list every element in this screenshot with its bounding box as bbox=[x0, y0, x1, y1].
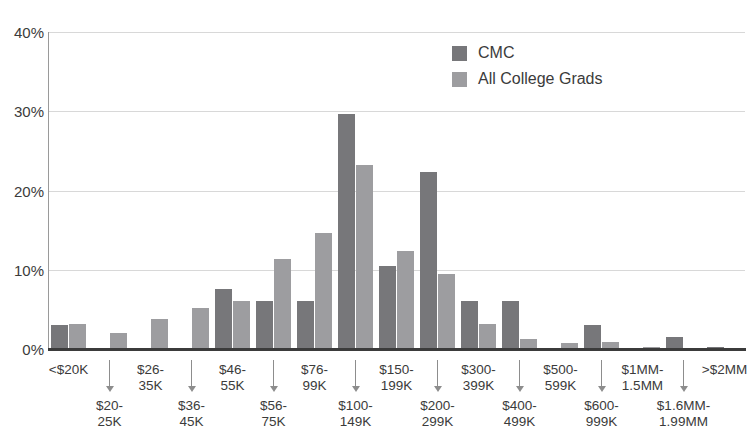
bar-cmc bbox=[502, 301, 519, 349]
x-tick-label: $400- 499K bbox=[484, 398, 556, 429]
bar-cmc bbox=[461, 301, 478, 349]
x-tick-label: $20- 25K bbox=[74, 398, 146, 429]
x-tick-arrow-icon bbox=[679, 360, 688, 394]
x-tick-label: $300- 399K bbox=[443, 362, 515, 393]
bar-cmc bbox=[215, 289, 232, 349]
legend-item-cmc: CMC bbox=[452, 44, 603, 62]
x-axis-line bbox=[48, 348, 746, 351]
bar-grads bbox=[151, 319, 168, 349]
x-tick-label: $36- 45K bbox=[156, 398, 228, 429]
x-tick-label: $100- 149K bbox=[320, 398, 392, 429]
bar-group bbox=[253, 32, 294, 349]
bar-grads bbox=[69, 324, 86, 349]
bar-group bbox=[663, 32, 704, 349]
bar-grads bbox=[438, 274, 455, 349]
x-tick-arrow-icon bbox=[515, 360, 524, 394]
y-tick-label-20: 20% bbox=[14, 182, 44, 199]
y-tick-label-10: 10% bbox=[14, 261, 44, 278]
bar-cmc bbox=[297, 301, 314, 349]
x-tick-label: $1MM- 1.5MM bbox=[607, 362, 679, 393]
bars-layer bbox=[48, 32, 745, 349]
bar-group bbox=[212, 32, 253, 349]
x-tick-label: $200- 299K bbox=[402, 398, 474, 429]
bar-cmc bbox=[338, 114, 355, 349]
y-axis-line bbox=[48, 32, 49, 350]
legend-swatch-grads-icon bbox=[452, 72, 467, 87]
bar-grads bbox=[110, 333, 127, 349]
bar-group bbox=[704, 32, 745, 349]
x-tick-label: $56- 75K bbox=[238, 398, 310, 429]
x-tick-label: $150- 199K bbox=[361, 362, 433, 393]
bar-cmc bbox=[256, 301, 273, 349]
bar-grads bbox=[397, 251, 414, 349]
x-tick-label: $1.6MM- 1.99MM bbox=[648, 398, 720, 429]
x-tick-arrow-icon bbox=[269, 360, 278, 394]
bar-grads bbox=[192, 308, 209, 349]
bar-cmc bbox=[420, 172, 437, 349]
legend-label-all-college-grads: All College Grads bbox=[478, 70, 603, 88]
plot-area bbox=[48, 32, 745, 349]
y-tick-label-30: 30% bbox=[14, 103, 44, 120]
x-tick-label: $600- 999K bbox=[566, 398, 638, 429]
income-distribution-bar-chart: 0%10%20%30%40% CMC All College Grads <$2… bbox=[0, 0, 754, 448]
legend-label-cmc: CMC bbox=[478, 44, 514, 62]
x-tick-label: $46- 55K bbox=[197, 362, 269, 393]
x-tick-arrow-icon bbox=[351, 360, 360, 394]
bar-grads bbox=[233, 301, 250, 349]
bar-group bbox=[89, 32, 130, 349]
bar-group bbox=[294, 32, 335, 349]
x-tick-arrow-icon bbox=[187, 360, 196, 394]
x-tick-arrow-icon bbox=[433, 360, 442, 394]
bar-group bbox=[48, 32, 89, 349]
y-tick-label-0: 0% bbox=[22, 341, 44, 358]
chart-legend: CMC All College Grads bbox=[452, 44, 603, 88]
bar-cmc bbox=[584, 325, 601, 349]
bar-grads bbox=[479, 324, 496, 349]
bar-group bbox=[335, 32, 376, 349]
bar-cmc bbox=[379, 266, 396, 349]
bar-group bbox=[622, 32, 663, 349]
x-tick-arrow-icon bbox=[597, 360, 606, 394]
x-tick-label: <$20K bbox=[33, 362, 105, 378]
x-tick-label: $500- 599K bbox=[525, 362, 597, 393]
legend-swatch-cmc-icon bbox=[452, 46, 467, 61]
bar-grads bbox=[315, 233, 332, 349]
legend-item-all-college-grads: All College Grads bbox=[452, 70, 603, 88]
bar-group bbox=[376, 32, 417, 349]
bar-grads bbox=[356, 165, 373, 349]
y-tick-label-40: 40% bbox=[14, 24, 44, 41]
x-tick-label: $26- 35K bbox=[115, 362, 187, 393]
x-tick-label: $76- 99K bbox=[279, 362, 351, 393]
x-tick-label: >$2MM bbox=[689, 362, 754, 378]
bar-group bbox=[130, 32, 171, 349]
bar-grads bbox=[274, 259, 291, 349]
x-axis-labels: <$20K$20- 25K$26- 35K$36- 45K$46- 55K$56… bbox=[48, 352, 746, 448]
x-tick-arrow-icon bbox=[105, 360, 114, 394]
bar-cmc bbox=[51, 325, 68, 349]
bar-group bbox=[171, 32, 212, 349]
